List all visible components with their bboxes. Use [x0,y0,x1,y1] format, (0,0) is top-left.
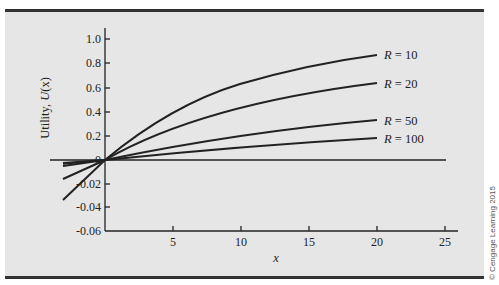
x-tick-label: 5 [170,235,176,249]
x-tick-label: 20 [371,235,383,249]
y-tick-label: 0.6 [86,81,101,95]
x-tick-label: 25 [439,235,451,249]
y-tick-label: -0.04 [76,200,101,214]
series-label-r50: R = 50 [383,114,417,128]
bottom-rule [5,276,484,279]
series-label-r10: R = 10 [383,48,417,62]
series-label-r20: R = 20 [383,77,417,91]
y-axis-title: Utility, U(x) [38,77,52,139]
x-axis-title: x [272,251,279,265]
top-rule [5,9,484,12]
y-tick-label: 0.8 [86,56,101,70]
copyright-credit: © Cengage Learning 2015 [488,185,497,280]
y-tick-label: 0.2 [86,129,101,143]
x-tick-label: 15 [303,235,315,249]
y-tick-label: 0.4 [86,105,101,119]
x-tick-label: 10 [235,235,247,249]
y-tick-label: 1.0 [86,32,101,46]
series-label-r100: R = 100 [383,132,424,146]
chart: 1.0 0.8 0.6 0.4 0.2 0 -0.02 -0.04 -0.06 … [0,0,499,285]
y-tick-label: -0.06 [76,224,101,238]
